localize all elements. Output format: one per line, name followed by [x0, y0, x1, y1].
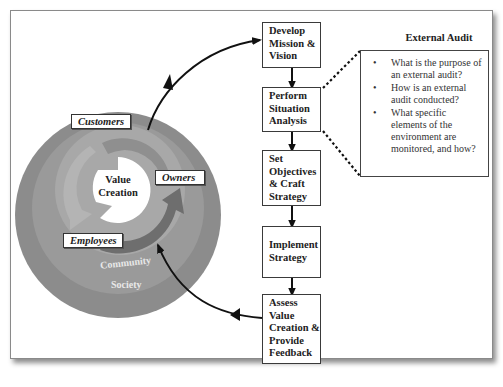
external-audit-box: •What is the purpose of an external audi…	[360, 50, 489, 177]
value-creation-label: Value Creation	[86, 173, 150, 199]
bullet-icon: •	[373, 82, 377, 94]
step-line: Vision	[269, 50, 320, 63]
step-line: Mission &	[269, 38, 320, 51]
audit-question: •What specific elements of the environme…	[369, 107, 484, 155]
audit-question: •How is an external audit conducted?	[369, 82, 484, 106]
audit-question-text: What is the purpose of an external audit…	[391, 57, 482, 80]
step-line: Objectives	[269, 166, 320, 179]
step-line: Feedback	[269, 347, 320, 360]
step-assess-value-creation-feedback: Assess Value Creation & Provide Feedback	[262, 294, 321, 364]
stakeholder-customers: Customers	[71, 114, 131, 129]
step-line: Value	[269, 310, 320, 323]
callout-dotted-line-top	[323, 51, 360, 88]
stakeholder-employees: Employees	[63, 233, 123, 248]
callout-dotted-line-bottom	[323, 131, 360, 176]
audit-question-text: What specific elements of the environmen…	[391, 107, 476, 154]
step-set-objectives-craft-strategy: Set Objectives & Craft Strategy	[262, 150, 321, 206]
step-perform-situation-analysis: Perform Situation Analysis	[262, 87, 321, 132]
arrow-mid-head-feedback	[230, 308, 240, 321]
bullet-icon: •	[373, 57, 377, 69]
external-audit-title: External Audit	[384, 32, 494, 43]
step-line: Assess	[269, 297, 320, 310]
step-line: Situation	[269, 103, 320, 116]
audit-question-text: How is an external audit conducted?	[391, 82, 466, 105]
step-line: Perform	[269, 90, 320, 103]
step-line: Analysis	[269, 115, 320, 128]
step-line: Strategy	[269, 191, 320, 204]
step-line: Implement	[269, 239, 320, 252]
audit-question: •What is the purpose of an external audi…	[369, 57, 484, 81]
step-line: Provide	[269, 335, 320, 348]
step-develop-mission-vision: Develop Mission & Vision	[262, 22, 321, 68]
bullet-icon: •	[373, 107, 377, 119]
society-label: Society	[111, 279, 142, 290]
external-audit-questions: •What is the purpose of an external audi…	[369, 57, 484, 155]
step-line: Develop	[269, 25, 320, 38]
step-line: Set	[269, 153, 320, 166]
step-line: Strategy	[269, 252, 320, 265]
stakeholder-owners: Owners	[155, 170, 205, 185]
step-line: & Craft	[269, 178, 320, 191]
arrow-mid-head	[163, 74, 173, 90]
step-line: Creation &	[269, 322, 320, 335]
step-implement-strategy: Implement Strategy	[262, 226, 321, 278]
